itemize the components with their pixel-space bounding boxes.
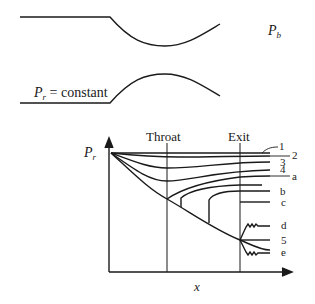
throat-label: Throat	[146, 130, 181, 143]
reservoir-suffix: = constant	[46, 85, 108, 100]
curve-label-2: 2	[292, 150, 298, 161]
reservoir-pressure-label: Pr = constant	[34, 86, 108, 102]
y-axis-symbol: P	[84, 145, 93, 160]
back-pressure-sub: b	[277, 30, 282, 40]
back-pressure-label: Pb	[268, 24, 281, 40]
curve-label-a: a	[292, 171, 297, 182]
curve-label-d: d	[281, 220, 287, 231]
y-axis-label: Pr	[84, 146, 96, 162]
leader-1	[262, 147, 278, 153]
curve-label-5: 5	[281, 235, 287, 246]
nozzle-pressure-diagram	[0, 0, 315, 304]
curve-label-c: c	[281, 197, 286, 208]
y-axis-arrow	[105, 138, 113, 148]
back-pressure-symbol: P	[268, 23, 277, 38]
y-axis-sub: r	[93, 152, 97, 162]
exit-label: Exit	[228, 130, 250, 143]
curve-label-1: 1	[279, 141, 285, 152]
curve-shock-1	[181, 185, 262, 207]
nozzle-upper-wall	[20, 17, 220, 46]
x-axis-arrow	[282, 268, 292, 276]
curve-label-e: e	[281, 247, 286, 258]
reservoir-symbol: P	[34, 85, 43, 100]
x-axis-label: x	[194, 280, 200, 293]
curve-d	[240, 224, 270, 240]
curve-label-4: 4	[280, 164, 286, 175]
